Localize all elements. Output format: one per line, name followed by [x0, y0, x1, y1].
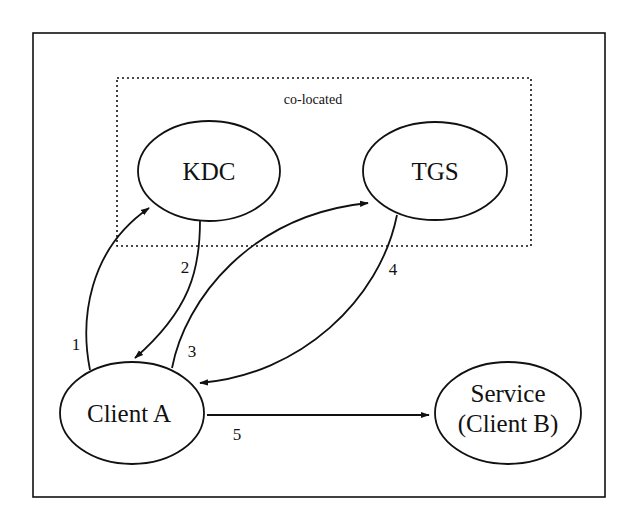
node-kdc: KDC [138, 121, 280, 221]
co-located-label: co-located [284, 92, 342, 107]
edge-3-client-to-tgs [172, 203, 368, 368]
edge-3-label: 3 [188, 342, 197, 361]
edge-2-kdc-to-client [135, 221, 200, 358]
client-a-label: Client A [87, 400, 171, 427]
edge-1-client-to-kdc [86, 208, 149, 370]
service-label-line2: (Client B) [458, 410, 559, 438]
kdc-label: KDC [183, 158, 236, 185]
edge-2-label: 2 [181, 258, 190, 277]
service-label-line1: Service [471, 380, 546, 407]
node-client-a: Client A [60, 362, 204, 464]
tgs-label: TGS [411, 158, 458, 185]
node-service: Service (Client B) [435, 362, 581, 464]
edge-4-tgs-to-client [200, 215, 397, 383]
edge-5-label: 5 [233, 425, 242, 444]
edge-4-label: 4 [389, 260, 398, 279]
kerberos-flow-diagram: co-located KDC TGS Client A Service (Cli… [0, 0, 635, 523]
edge-1-label: 1 [72, 335, 81, 354]
node-tgs: TGS [363, 122, 507, 220]
